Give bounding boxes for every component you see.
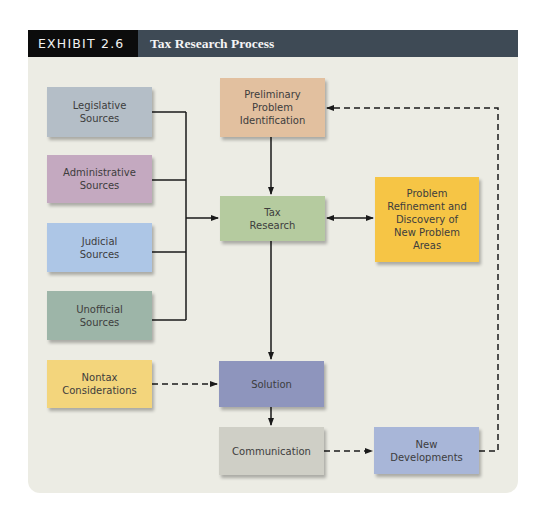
- node-judicial-sources: Judicial Sources: [47, 223, 152, 272]
- exhibit-number: EXHIBIT 2.6: [28, 30, 138, 57]
- node-preliminary-problem-identification: Preliminary Problem Identification: [220, 78, 325, 137]
- node-tax-research: Tax Research: [220, 196, 325, 241]
- exhibit-header: EXHIBIT 2.6 Tax Research Process: [28, 30, 518, 57]
- node-new-developments: New Developments: [374, 427, 479, 474]
- node-problem-refinement: Problem Refinement and Discovery of New …: [375, 177, 479, 262]
- node-solution: Solution: [219, 361, 324, 407]
- node-communication: Communication: [219, 427, 324, 475]
- node-administrative-sources: Administrative Sources: [47, 155, 152, 203]
- node-nontax-considerations: Nontax Considerations: [47, 360, 152, 408]
- node-legislative-sources: Legislative Sources: [47, 87, 152, 137]
- exhibit-title: Tax Research Process: [138, 30, 518, 57]
- node-unofficial-sources: Unofficial Sources: [47, 291, 152, 340]
